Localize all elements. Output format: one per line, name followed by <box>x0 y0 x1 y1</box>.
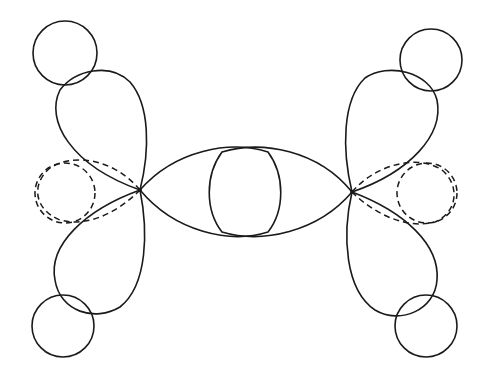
right-upper-lobe <box>346 70 438 192</box>
center-left-lobe <box>140 147 281 236</box>
orbital-diagram <box>0 0 489 377</box>
left-dashed-lobe <box>38 160 140 222</box>
bottom-left-circle <box>32 295 94 357</box>
left-upper-lobe <box>56 70 147 190</box>
top-right-circle <box>400 29 462 91</box>
right-dashed-lobe <box>352 162 454 224</box>
top-left-circle <box>33 21 97 85</box>
right-node <box>350 190 354 194</box>
right-lower-lobe <box>347 192 437 316</box>
left-dashed-circle <box>35 163 95 223</box>
right-dashed-circle <box>397 163 457 223</box>
left-node <box>138 188 142 192</box>
